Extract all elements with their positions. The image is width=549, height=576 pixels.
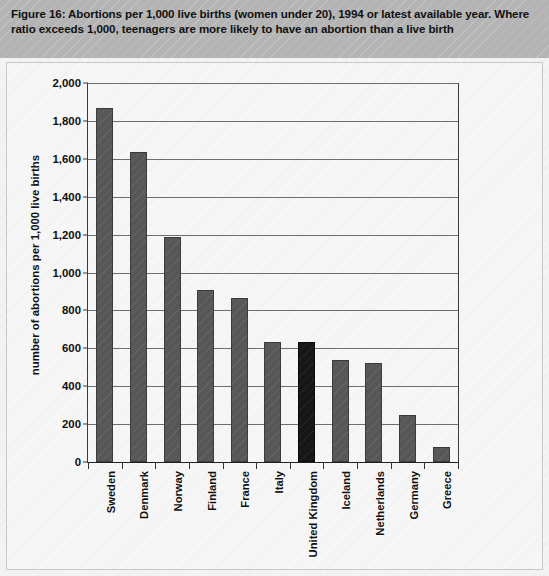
- figure-caption-text: Figure 16: Abortions per 1,000 live birt…: [11, 6, 535, 36]
- figure-caption-banner: Figure 16: Abortions per 1,000 live birt…: [0, 0, 549, 58]
- x-axis-tick-mark: [88, 462, 89, 469]
- x-axis-tick-mark: [256, 462, 257, 469]
- y-axis-tick-label: 0: [75, 456, 81, 468]
- y-axis-tick-label: 1,000: [52, 267, 81, 279]
- x-axis-label-slot: Italy: [256, 471, 290, 571]
- y-axis-tick-label: 1,400: [52, 191, 81, 203]
- x-axis-tick-label: Netherlands: [374, 471, 386, 536]
- x-axis-tick-mark: [189, 462, 190, 469]
- x-axis-label-slot: Finland: [189, 471, 223, 571]
- bar-slot: [290, 83, 324, 462]
- x-axis-tick-label: Iceland: [340, 471, 352, 510]
- bar-slot: [223, 83, 257, 462]
- x-axis-tick-mark: [323, 462, 324, 469]
- bar[interactable]: [231, 298, 248, 462]
- bar-slot: [88, 83, 122, 462]
- x-axis-tick-label: Denmark: [138, 471, 150, 519]
- x-axis-label-slot: Netherlands: [357, 471, 391, 571]
- x-axis-tick-label: Germany: [408, 471, 420, 520]
- x-axis-label-slot: Denmark: [122, 471, 156, 571]
- bar[interactable]: [96, 108, 113, 462]
- y-axis-tick-label: 800: [62, 304, 81, 316]
- bar[interactable]: [399, 415, 416, 462]
- x-axis-tick-mark: [424, 462, 425, 469]
- x-axis-tick-mark: [223, 462, 224, 469]
- x-axis-label-slot: Iceland: [323, 471, 357, 571]
- bar[interactable]: [332, 360, 349, 462]
- x-axis-tick-mark: [290, 462, 291, 469]
- chart-panel: number of abortions per 1,000 live birth…: [6, 62, 543, 570]
- figure-page: Figure 16: Abortions per 1,000 live birt…: [0, 0, 549, 576]
- x-axis-label-slot: Greece: [424, 471, 458, 571]
- x-axis-tick-mark: [357, 462, 358, 469]
- bar[interactable]: [433, 447, 450, 462]
- x-axis-tick-label: Italy: [273, 471, 285, 493]
- y-axis-tick-label: 400: [62, 380, 81, 392]
- x-axis-tick-mark: [122, 462, 123, 469]
- x-axis-tick-label: Norway: [172, 471, 184, 511]
- bar-slot: [357, 83, 391, 462]
- x-axis-tick-mark: [155, 462, 156, 469]
- x-axis-tick-label: Sweden: [105, 471, 117, 513]
- y-axis-tick-label: 1,200: [52, 229, 81, 241]
- bars-group: [88, 83, 458, 462]
- x-axis-tick-label: France: [239, 471, 251, 508]
- y-axis-tick-label: 1,600: [52, 153, 81, 165]
- y-axis-tick-label: 1,800: [52, 115, 81, 127]
- plot-area: 02004006008001,0001,2001,4001,6001,8002,…: [87, 83, 459, 463]
- x-axis-tick-label: Finland: [206, 471, 218, 511]
- bar-slot: [122, 83, 156, 462]
- x-axis-label-slot: Sweden: [88, 471, 122, 571]
- y-axis-tick-label: 600: [62, 342, 81, 354]
- x-axis-label-slot: United Kingdom: [290, 471, 324, 571]
- bar-slot: [189, 83, 223, 462]
- x-axis-tick-mark: [391, 462, 392, 469]
- x-axis-label-slot: Germany: [391, 471, 425, 571]
- bar-slot: [424, 83, 458, 462]
- bar[interactable]: [365, 363, 382, 462]
- y-axis-tick-label: 200: [62, 418, 81, 430]
- y-axis-title: number of abortions per 1,000 live birth…: [29, 145, 41, 385]
- bar-slot: [391, 83, 425, 462]
- bar[interactable]: [130, 152, 147, 462]
- x-axis-label-slot: Norway: [155, 471, 189, 571]
- x-axis-label-slot: France: [223, 471, 257, 571]
- bar-slot: [256, 83, 290, 462]
- y-axis-tick-label: 2,000: [52, 77, 81, 89]
- bar-slot: [155, 83, 189, 462]
- bar[interactable]: [197, 290, 214, 462]
- bar-slot: [323, 83, 357, 462]
- bar[interactable]: [298, 342, 315, 462]
- x-axis-tick-mark: [458, 462, 459, 469]
- bar[interactable]: [164, 237, 181, 463]
- x-axis-tick-label: United Kingdom: [307, 471, 319, 557]
- bar[interactable]: [264, 342, 281, 462]
- x-axis-tick-label: Greece: [441, 471, 453, 509]
